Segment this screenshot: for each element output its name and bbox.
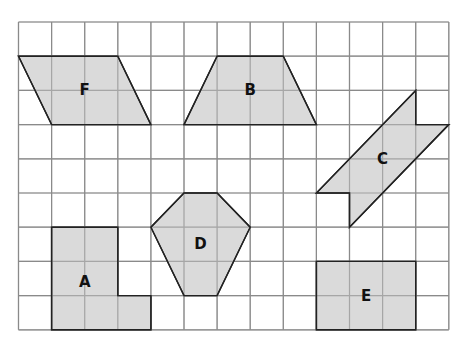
shape-label-c: C: [377, 150, 388, 168]
shape-label-b: B: [244, 81, 255, 99]
shape-grid-diagram: FBCDAE: [0, 0, 465, 344]
shape-label-a: A: [79, 273, 91, 291]
shape-label-d: D: [194, 235, 206, 253]
shape-a: [52, 227, 151, 330]
shape-label-e: E: [361, 287, 371, 305]
shape-label-f: F: [80, 81, 90, 99]
